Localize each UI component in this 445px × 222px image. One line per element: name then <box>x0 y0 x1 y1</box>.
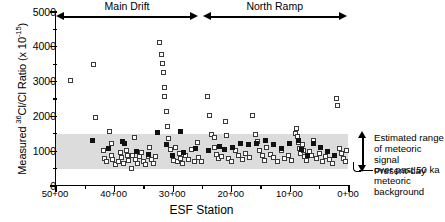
data-point-filled-square <box>193 146 198 151</box>
data-point-open-square <box>161 70 166 75</box>
data-point-open-square <box>317 151 322 156</box>
data-point-open-square <box>116 159 121 164</box>
baseline-annotation-label: Present-daymeteoricbackground <box>374 166 426 198</box>
chart-figure: Measured 36Cl/Cl Ratio (x 10-15) 0 1000 … <box>0 0 445 222</box>
y-axis-minor-tick <box>53 98 57 99</box>
data-point-open-square <box>219 154 224 159</box>
x-axis-title: ESF Station <box>55 203 348 217</box>
data-point-filled-square <box>170 153 175 158</box>
arrow-head-left-icon <box>203 12 211 20</box>
y-axis-major-tick <box>50 81 57 82</box>
data-point-open-square <box>289 158 294 163</box>
data-point-open-square <box>180 161 185 166</box>
data-point-open-square <box>205 94 210 99</box>
arrow-head-right-icon <box>190 12 198 20</box>
data-point-open-square <box>166 136 171 141</box>
data-point-open-square <box>335 103 340 108</box>
data-point-filled-square <box>178 129 183 134</box>
data-point-filled-square <box>230 145 235 150</box>
data-point-open-square <box>229 159 234 164</box>
data-point-open-square <box>68 78 73 83</box>
data-point-open-square <box>143 162 148 167</box>
data-point-filled-square <box>279 146 284 151</box>
x-axis-major-tick <box>231 185 232 192</box>
baseline-bracket-stem <box>359 170 373 172</box>
y-axis-major-tick <box>50 151 57 152</box>
data-point-open-square <box>253 132 258 137</box>
range-arrow-label: Main Drift <box>56 0 198 12</box>
data-point-filled-square <box>299 147 304 152</box>
data-point-open-square <box>162 94 167 99</box>
band-arrow-up-icon <box>358 131 366 138</box>
data-point-open-square <box>153 154 158 159</box>
y-axis-minor-tick <box>53 29 57 30</box>
data-point-open-square <box>195 140 200 145</box>
data-point-open-square <box>334 96 339 101</box>
range-arrow-line <box>210 16 340 18</box>
data-point-open-square <box>159 52 164 57</box>
data-point-open-square <box>126 158 131 163</box>
plot-area <box>55 12 348 186</box>
x-axis-major-tick <box>290 185 291 192</box>
data-point-filled-square <box>311 141 316 146</box>
data-point-filled-square <box>238 141 243 146</box>
data-point-filled-square <box>206 148 211 153</box>
x-axis-major-tick <box>114 185 115 192</box>
data-point-filled-square <box>181 150 186 155</box>
data-point-open-square <box>304 158 309 163</box>
data-point-open-square <box>314 156 319 161</box>
data-point-open-square <box>132 135 137 140</box>
data-point-open-square <box>104 159 109 164</box>
data-point-open-square <box>165 124 170 129</box>
data-point-filled-square <box>164 142 169 147</box>
data-point-filled-square <box>90 138 95 143</box>
data-point-open-square <box>247 155 252 160</box>
y-axis-minor-tick <box>53 133 57 134</box>
data-point-open-square <box>151 161 156 166</box>
data-point-filled-square <box>122 141 127 146</box>
data-point-open-square <box>224 133 229 138</box>
data-point-open-square <box>173 145 178 150</box>
x-axis-minor-tick <box>85 185 86 189</box>
data-point-filled-square <box>222 147 227 152</box>
data-point-open-square <box>101 148 106 153</box>
data-point-open-square <box>119 155 124 160</box>
data-point-filled-square <box>134 149 139 154</box>
x-axis-minor-tick <box>260 185 261 189</box>
data-point-open-square <box>262 158 267 163</box>
data-point-filled-square <box>296 138 301 143</box>
data-point-filled-square <box>287 141 292 146</box>
x-axis-major-tick <box>348 185 349 192</box>
data-point-open-square <box>344 148 349 153</box>
data-point-open-square <box>294 126 299 131</box>
data-point-open-square <box>186 157 191 162</box>
range-arrow-label: North Ramp <box>203 0 347 12</box>
data-point-filled-square <box>155 130 160 135</box>
data-point-open-square <box>107 129 112 134</box>
data-point-open-square <box>91 62 96 67</box>
data-point-open-square <box>212 145 217 150</box>
data-point-open-square <box>212 135 217 140</box>
data-point-filled-square <box>146 152 151 157</box>
data-point-open-square <box>240 157 245 162</box>
data-point-open-square <box>135 161 140 166</box>
band-double-arrow <box>362 136 364 167</box>
data-point-open-square <box>192 159 197 164</box>
x-axis-minor-tick <box>143 185 144 189</box>
data-point-open-square <box>164 109 169 114</box>
data-point-open-square <box>343 159 348 164</box>
arrow-head-left-icon <box>56 12 64 20</box>
data-point-open-square <box>275 159 280 164</box>
data-point-open-square <box>162 85 167 90</box>
data-point-open-square <box>147 145 152 150</box>
data-point-filled-square <box>332 153 337 158</box>
data-point-open-square <box>320 159 325 164</box>
data-point-filled-square <box>263 138 268 143</box>
data-point-filled-square <box>246 142 251 147</box>
data-point-filled-square <box>318 145 323 150</box>
data-point-open-square <box>223 119 228 124</box>
data-point-filled-square <box>271 142 276 147</box>
y-axis-minor-tick <box>53 64 57 65</box>
data-point-open-square <box>160 61 165 66</box>
data-point-open-square <box>129 166 134 171</box>
